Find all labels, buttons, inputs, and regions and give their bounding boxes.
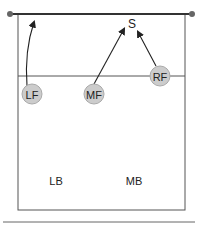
player-label-lb: LB [49, 175, 62, 187]
net-post-right [189, 11, 195, 17]
rf-arrow [138, 32, 156, 66]
court-diagram [0, 0, 204, 225]
player-label-mb: MB [126, 175, 143, 187]
player-label-mf: MF [86, 89, 102, 101]
player-label-lf: LF [26, 89, 39, 101]
setter-label: S [128, 17, 136, 31]
player-label-rf: RF [153, 71, 168, 83]
court-boundary [18, 14, 185, 210]
net-post-left [7, 11, 13, 17]
